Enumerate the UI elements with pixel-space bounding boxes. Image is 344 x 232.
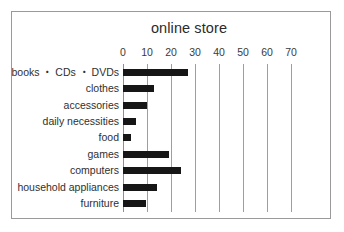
bar-row: computers (123, 163, 291, 179)
category-label: daily necessities (43, 116, 119, 127)
category-label: food (99, 132, 119, 143)
bar (123, 118, 136, 125)
bar-row: accessories (123, 97, 291, 113)
plot-area: books ・ CDs ・ DVDsclothesaccessoriesdail… (123, 64, 291, 212)
bar-row: furniture (123, 196, 291, 212)
bar (123, 85, 154, 92)
x-tick-label-50: 50 (237, 46, 249, 58)
bar-row: games (123, 146, 291, 162)
x-axis-tick-labels: 010203040506070 (123, 46, 291, 60)
category-label: furniture (80, 198, 119, 209)
category-label: books ・ CDs ・ DVDs (11, 67, 119, 78)
gridline-70 (291, 64, 292, 212)
bar-row: household appliances (123, 179, 291, 195)
category-label: accessories (64, 100, 119, 111)
x-tick-label-10: 10 (141, 46, 153, 58)
x-tick-label-20: 20 (165, 46, 177, 58)
x-tick-label-60: 60 (261, 46, 273, 58)
x-tick-label-40: 40 (213, 46, 225, 58)
bar (123, 134, 131, 141)
bar (123, 184, 157, 191)
bar (123, 151, 169, 158)
x-tick-label-70: 70 (285, 46, 297, 58)
category-label: household appliances (17, 182, 119, 193)
chart-title: online store (12, 20, 330, 36)
x-tick-label-30: 30 (189, 46, 201, 58)
bar (123, 167, 181, 174)
bar-row: clothes (123, 80, 291, 96)
bar-series: books ・ CDs ・ DVDsclothesaccessoriesdail… (123, 64, 291, 212)
chart-frame: online store 010203040506070 books ・ CDs… (11, 11, 331, 219)
category-label: games (87, 149, 119, 160)
bar-row: food (123, 130, 291, 146)
x-tick-label-0: 0 (120, 46, 126, 58)
bar-row: daily necessities (123, 113, 291, 129)
bar (123, 102, 147, 109)
bar (123, 200, 146, 207)
category-label: clothes (86, 83, 119, 94)
bar (123, 69, 188, 76)
category-label: computers (70, 165, 119, 176)
bar-row: books ・ CDs ・ DVDs (123, 64, 291, 80)
